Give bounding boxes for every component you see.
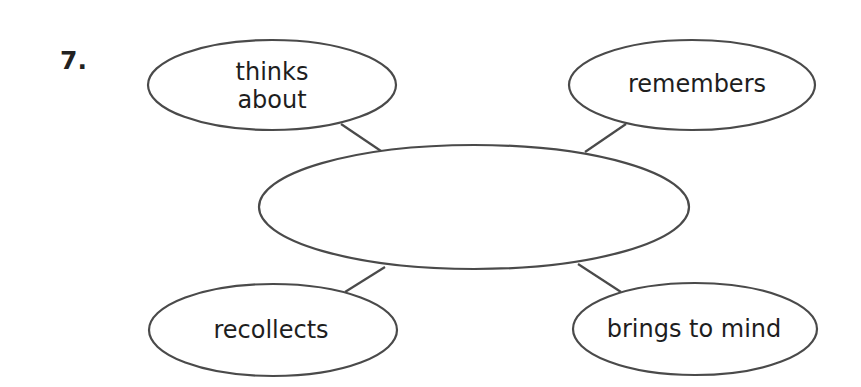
connector-top-left (341, 124, 381, 151)
center-answer-ellipse[interactable] (259, 145, 689, 269)
node-label-line: thinks (236, 58, 309, 86)
node-label-bottom-right: brings to mind (607, 315, 782, 343)
node-label-bottom-left: recollects (213, 316, 328, 344)
node-label-line: about (236, 86, 309, 114)
connector-bottom-right (578, 264, 621, 292)
node-label-top-left: thinks about (236, 58, 309, 114)
node-label-top-right: remembers (628, 70, 766, 98)
connector-bottom-left (345, 267, 385, 292)
connector-top-right (585, 124, 626, 152)
